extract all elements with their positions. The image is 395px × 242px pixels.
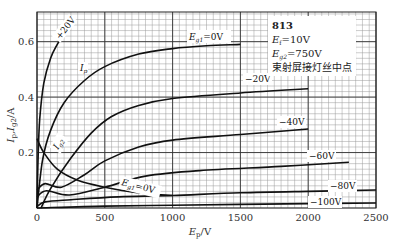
y-tick-label: 0.4 bbox=[18, 92, 34, 103]
info-box: 813 Ef=10V Eg2=750V 束射屏接灯丝中点 bbox=[268, 16, 356, 76]
label-minus100v: −100V bbox=[310, 197, 342, 207]
tube-model: 813 bbox=[272, 20, 293, 31]
y-tick-label: 0.2 bbox=[18, 147, 34, 158]
x-tick-label: 2500 bbox=[363, 212, 388, 223]
label-minus40v: −40V bbox=[279, 117, 305, 127]
x-axis-title: Ep/V bbox=[188, 226, 212, 239]
x-tick-label: 1000 bbox=[160, 212, 185, 223]
curve--20v bbox=[41, 89, 308, 208]
x-tick-label: 1500 bbox=[228, 212, 253, 223]
y-tick-label: 0.6 bbox=[18, 36, 34, 47]
characteristic-chart: 050010001500200025000.20.40.6 +20V Ip Eg… bbox=[0, 0, 395, 242]
y-axis-title: Ip,Ig2/A bbox=[5, 107, 18, 144]
label-minus20v: −20V bbox=[245, 74, 271, 84]
label-minus60v: −60V bbox=[309, 151, 335, 161]
label-minus80v: −80V bbox=[330, 181, 356, 191]
x-tick-label: 500 bbox=[95, 212, 114, 223]
note-beam-plate: 束射屏接灯丝中点 bbox=[272, 61, 352, 73]
x-tick-label: 0 bbox=[34, 212, 40, 223]
x-tick-label: 2000 bbox=[295, 212, 320, 223]
filament-voltage: Ef=10V bbox=[271, 34, 311, 46]
